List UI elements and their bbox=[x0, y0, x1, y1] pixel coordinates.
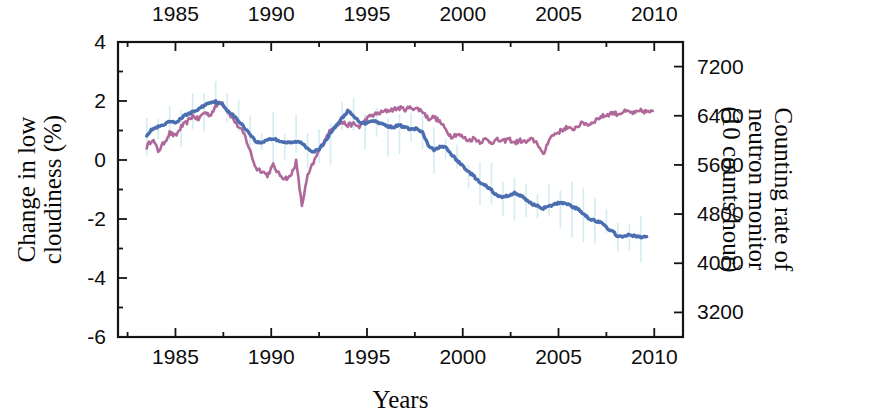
x-tick-label-bottom: 2010 bbox=[631, 345, 678, 369]
x-tick-label-top: 2005 bbox=[535, 2, 582, 26]
x-tick-label-bottom: 2000 bbox=[439, 345, 486, 369]
y-tick-label-right: 4000 bbox=[697, 251, 744, 275]
y-axis-left-title-line: cloudiness (%) bbox=[40, 42, 66, 337]
y-tick-label-left: -4 bbox=[87, 266, 106, 290]
x-tick-label-bottom: 1985 bbox=[152, 345, 199, 369]
x-tick-label-top: 1985 bbox=[152, 2, 199, 26]
y-tick-label-right: 3200 bbox=[697, 300, 744, 324]
x-tick-label-bottom: 1990 bbox=[248, 345, 295, 369]
y-tick-label-left: -2 bbox=[87, 207, 106, 231]
y-tick-label-right: 6400 bbox=[697, 104, 744, 128]
y-tick-label-left: 2 bbox=[94, 89, 106, 113]
y-tick-label-right: 4800 bbox=[697, 202, 744, 226]
y-axis-right-title-line: (10 counts/hour) bbox=[718, 42, 744, 337]
y-tick-label-left: -6 bbox=[87, 325, 106, 349]
x-tick-label-top: 2010 bbox=[631, 2, 678, 26]
plot-frame bbox=[118, 42, 683, 337]
x-tick-label-bottom: 2005 bbox=[535, 345, 582, 369]
x-tick-label-top: 1995 bbox=[344, 2, 391, 26]
y-axis-left-title: Change in lowcloudiness (%) bbox=[14, 42, 66, 337]
y-tick-label-left: 0 bbox=[94, 148, 106, 172]
y-axis-right-title-line: Counting rate of bbox=[770, 42, 796, 337]
x-tick-label-top: 1990 bbox=[248, 2, 295, 26]
y-tick-label-left: 4 bbox=[94, 30, 106, 54]
x-tick-label-top: 2000 bbox=[439, 2, 486, 26]
x-tick-label-bottom: 1995 bbox=[344, 345, 391, 369]
y-tick-label-right: 5600 bbox=[697, 153, 744, 177]
y-axis-right-title: Counting rate ofneutron monitor(10 count… bbox=[718, 42, 796, 337]
y-axis-left-title-line: Change in low bbox=[14, 42, 40, 337]
y-axis-right-title-line: neutron monitor bbox=[744, 42, 770, 337]
y-tick-label-right: 7200 bbox=[697, 55, 744, 79]
x-axis-title: Years bbox=[373, 386, 429, 414]
